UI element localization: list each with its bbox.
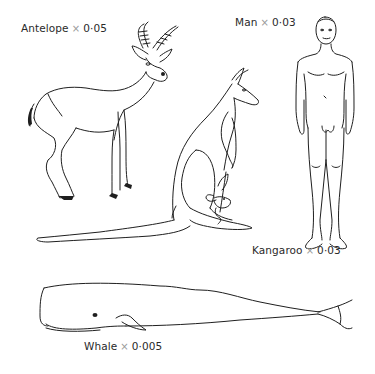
animal-drawings — [0, 0, 375, 374]
label-man: Man×0·03 — [235, 16, 296, 28]
label-scale: 0·05 — [83, 22, 107, 34]
man-drawing — [296, 17, 354, 249]
times-icon: × — [72, 23, 80, 34]
label-kangaroo: Kangaroo×0·03 — [252, 244, 341, 256]
times-icon: × — [306, 245, 314, 256]
label-name: Kangaroo — [252, 244, 303, 256]
kangaroo-drawing — [37, 68, 259, 242]
label-name: Antelope — [21, 22, 69, 34]
label-name: Man — [235, 16, 257, 28]
label-antelope: Antelope×0·05 — [21, 22, 107, 34]
label-name: Whale — [84, 340, 117, 352]
label-scale: 0·03 — [317, 244, 341, 256]
label-whale: Whale×0·005 — [84, 340, 162, 352]
scale-figure: Antelope×0·05 Man×0·03 Kangaroo×0·03 Wha… — [0, 0, 375, 374]
times-icon: × — [120, 341, 128, 352]
whale-drawing — [40, 283, 352, 331]
label-scale: 0·005 — [132, 340, 163, 352]
antelope-drawing — [28, 22, 178, 200]
label-scale: 0·03 — [272, 16, 296, 28]
times-icon: × — [260, 17, 268, 28]
